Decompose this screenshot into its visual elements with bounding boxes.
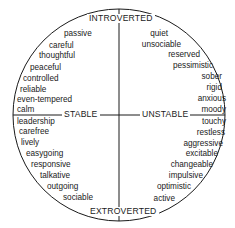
trait-optimistic: optimistic	[157, 182, 191, 191]
trait-aggressive: aggressive	[183, 139, 223, 148]
trait-moody: moody	[201, 105, 226, 114]
trait-changeable: changeable	[171, 160, 213, 169]
trait-active: active	[154, 194, 175, 203]
trait-even-tempered: even-tempered	[17, 95, 72, 104]
axis-label-introverted: INTROVERTED	[87, 14, 155, 23]
trait-peaceful: peaceful	[30, 63, 61, 72]
axis-label-extroverted: EXTROVERTED	[88, 207, 159, 216]
trait-talkative: talkative	[40, 171, 70, 180]
trait-rigid: rigid	[207, 83, 222, 92]
trait-sociable: sociable	[63, 193, 93, 202]
trait-impulsive: impulsive	[169, 171, 203, 180]
trait-lively: lively	[21, 138, 39, 147]
trait-outgoing: outgoing	[47, 182, 78, 191]
trait-quiet: quiet	[150, 29, 168, 38]
trait-touchy: touchy	[202, 117, 226, 126]
trait-easygoing: easygoing	[26, 149, 63, 158]
trait-leadership: leadership	[17, 117, 55, 126]
axis-label-stable: STABLE	[62, 110, 100, 119]
trait-reliable: reliable	[20, 85, 46, 94]
trait-thoughtful: thoughtful	[39, 51, 75, 60]
trait-calm: calm	[17, 105, 34, 114]
trait-passive: passive	[64, 29, 92, 38]
trait-controlled: controlled	[23, 74, 59, 83]
trait-restless: restless	[197, 128, 225, 137]
trait-excitable: excitable	[186, 149, 218, 158]
trait-responsive: responsive	[31, 160, 71, 169]
axis-label-unstable: UNSTABLE	[140, 110, 190, 119]
trait-reserved: reserved	[168, 50, 200, 59]
trait-unsociable: unsociable	[142, 40, 181, 49]
trait-carefree: carefree	[19, 127, 49, 136]
personality-circle	[0, 0, 235, 228]
trait-pessimistic: pessimistic	[173, 61, 213, 70]
trait-anxious: anxious	[198, 94, 226, 103]
trait-careful: careful	[49, 41, 74, 50]
trait-sober: sober	[202, 72, 222, 81]
